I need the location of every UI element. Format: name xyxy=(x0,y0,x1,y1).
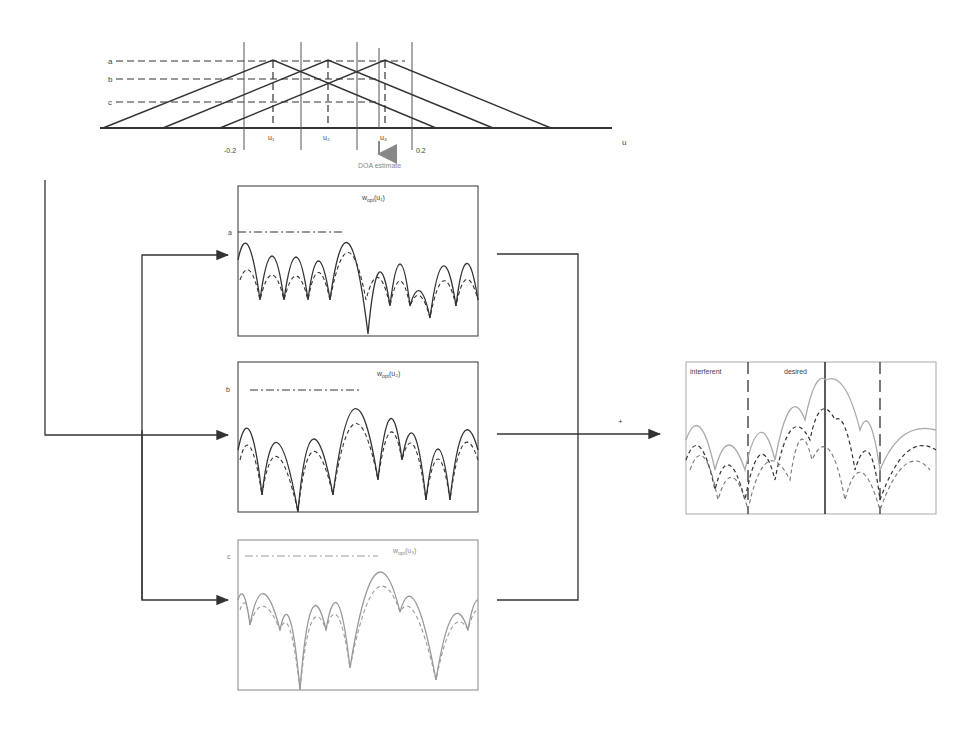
beam-panel-3: c wopt(u₃) xyxy=(227,540,478,690)
desired-label: desired xyxy=(784,368,807,375)
axis-label-u: u xyxy=(622,138,626,147)
peak-label-u1: u₁ xyxy=(268,134,275,141)
diagram-canvas: a b c u₁ u₂ u₃ -0.2 0.2 u DOA estimate +… xyxy=(0,0,969,731)
level-dashes xyxy=(116,61,405,128)
tick-left: -0.2 xyxy=(224,147,236,154)
combined-beam-panel: interferent desired xyxy=(686,362,936,514)
triangles xyxy=(103,60,551,128)
panel-3-level-label: c xyxy=(227,553,231,560)
peak-label-u2: u₂ xyxy=(323,134,330,141)
level-label-b: b xyxy=(108,75,113,84)
triangle-weighting-diagram: a b c u₁ u₂ u₃ -0.2 0.2 u DOA estimate xyxy=(100,42,626,169)
doa-label: DOA estimate xyxy=(358,162,401,169)
sum-sign: + xyxy=(618,417,623,426)
peak-label-u3: u₃ xyxy=(380,134,387,141)
panel-1-level-label: a xyxy=(228,229,232,236)
level-label-a: a xyxy=(108,57,113,66)
beam-panel-1: a wopt(u₁) xyxy=(228,186,478,336)
level-label-c: c xyxy=(108,98,112,107)
beam-panel-2: b wopt(u₂) xyxy=(226,362,478,512)
tick-right: 0.2 xyxy=(416,147,426,154)
panel-2-level-label: b xyxy=(226,386,230,393)
interferent-label: interferent xyxy=(690,368,722,375)
